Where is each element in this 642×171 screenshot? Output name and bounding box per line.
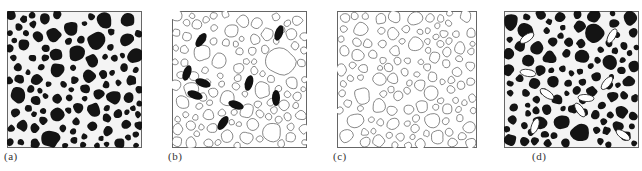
panel-label-a: (a): [4, 150, 18, 162]
outlined-grains-dark-inclusions-image: [172, 11, 307, 148]
panel-c: [337, 11, 477, 148]
panel-label-b: (b): [168, 150, 182, 162]
panel-label-d: (d): [532, 150, 546, 162]
outlined-grains-image: [337, 11, 477, 148]
dark-grain-network-image: [7, 11, 142, 148]
panel-b: [172, 11, 307, 148]
panel-a: [7, 11, 142, 148]
panel-d: [504, 11, 639, 148]
panel-label-c: (c): [333, 150, 347, 162]
dark-grains-white-inclusions-image: [504, 11, 639, 148]
